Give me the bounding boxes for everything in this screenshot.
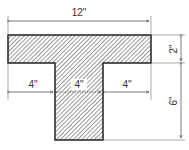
right-overhang-label: 4" [122, 79, 132, 90]
t-beam-diagram: 12" 4" 4" 4" 2" 6" [0, 0, 189, 150]
flange-width-label: 12" [72, 7, 87, 18]
flange-thickness-label: 2" [168, 44, 179, 54]
web-width-label: 4" [74, 79, 84, 90]
left-overhang-label: 4" [28, 79, 38, 90]
total-depth-label: 6" [168, 96, 179, 106]
